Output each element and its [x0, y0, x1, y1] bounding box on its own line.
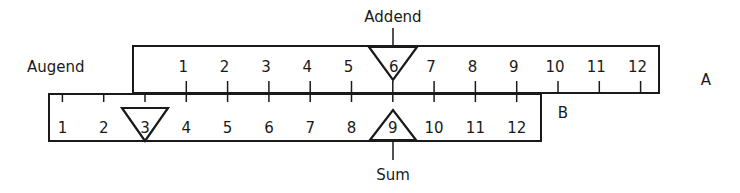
ruler-b-number: 2 [99, 119, 109, 137]
ruler-b-number: 1 [58, 119, 68, 137]
ruler-b-number: 6 [264, 119, 274, 137]
ruler-a-number: 3 [261, 58, 271, 76]
ruler-b-numbers: 123456789101112 [58, 119, 527, 137]
slide-rule-diagram: 123456789101112 123456789101112 Addend A… [0, 0, 740, 193]
ruler-a-number: 9 [509, 58, 519, 76]
ruler-a-number: 2 [220, 58, 230, 76]
ruler-b-number: 10 [425, 119, 444, 137]
ruler-a-number: 11 [587, 58, 606, 76]
ruler-b-number: 5 [223, 119, 233, 137]
ruler-b-number: 4 [182, 119, 192, 137]
ruler-b-number: 8 [347, 119, 357, 137]
ruler-a-number: 7 [426, 58, 436, 76]
augend-label: Augend [27, 58, 85, 76]
ruler-a-number: 5 [344, 58, 354, 76]
ruler-a-number: 8 [468, 58, 478, 76]
ruler-b-label: B [558, 104, 568, 122]
ruler-b-number: 9 [388, 119, 398, 137]
ruler-b-number: 7 [305, 119, 315, 137]
ruler-a-label: A [701, 71, 712, 89]
ruler-b-number: 12 [507, 119, 526, 137]
ruler-a-ticks [186, 81, 640, 93]
ruler-a-numbers: 123456789101112 [179, 58, 648, 76]
sum-label: Sum [376, 166, 410, 184]
ruler-a-number: 10 [545, 58, 564, 76]
ruler-a-number: 12 [628, 58, 647, 76]
ruler-b-ticks [62, 94, 516, 102]
ruler-a-number: 4 [302, 58, 312, 76]
ruler-b-number: 11 [466, 119, 485, 137]
addend-label: Addend [364, 8, 421, 26]
ruler-a-number: 1 [179, 58, 189, 76]
